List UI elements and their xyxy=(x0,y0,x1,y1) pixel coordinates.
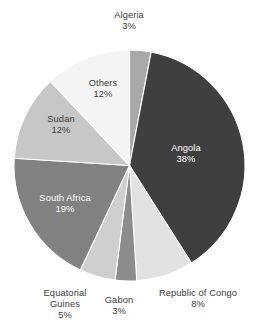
pie-chart: Algeria 3% Angola 38% Republic of Congo … xyxy=(0,0,259,332)
pie-slice-group xyxy=(14,50,245,281)
pie-chart-graphic xyxy=(0,0,259,332)
